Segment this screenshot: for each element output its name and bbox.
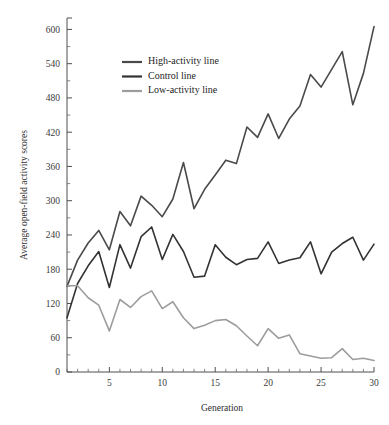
y-tick-label: 300: [46, 196, 61, 206]
y-tick-label: 240: [46, 230, 61, 240]
chart-legend: High-activity lineControl lineLow-activi…: [122, 55, 219, 95]
line-chart: 060120180240300360420480540600 510152025…: [0, 0, 389, 425]
legend-label-3: Low-activity line: [148, 84, 218, 95]
y-axis-tick-labels: 060120180240300360420480540600: [46, 25, 61, 378]
x-tick-label: 5: [107, 378, 112, 388]
x-tick-label: 10: [158, 378, 168, 388]
y-tick-label: 180: [46, 265, 61, 275]
y-tick-label: 420: [46, 128, 61, 138]
x-axis-title: Generation: [201, 403, 243, 413]
y-axis-title: Average open-field activity scores: [19, 130, 29, 260]
x-tick-label: 30: [369, 378, 379, 388]
data-series-group: [67, 27, 374, 361]
y-tick-label: 480: [46, 93, 61, 103]
series-line-high-activity-line: [67, 27, 374, 287]
x-axis-tick-labels: 51015202530: [107, 378, 379, 388]
y-tick-label: 540: [46, 59, 61, 69]
series-line-control-line: [67, 227, 374, 318]
legend-label-2: Control line: [148, 70, 197, 81]
y-tick-label: 360: [46, 162, 61, 172]
x-tick-label: 20: [263, 378, 273, 388]
y-tick-label: 600: [46, 25, 61, 35]
x-tick-label: 15: [210, 378, 220, 388]
x-tick-label: 25: [316, 378, 326, 388]
legend-label-1: High-activity line: [148, 55, 219, 66]
y-tick-label: 120: [46, 299, 61, 309]
series-line-low-activity-line: [67, 286, 374, 361]
y-tick-label: 0: [55, 367, 60, 377]
y-tick-label: 60: [51, 333, 61, 343]
y-axis-ticks: [67, 18, 72, 372]
chart-container: 060120180240300360420480540600 510152025…: [0, 0, 389, 425]
x-axis-ticks: [67, 367, 374, 372]
